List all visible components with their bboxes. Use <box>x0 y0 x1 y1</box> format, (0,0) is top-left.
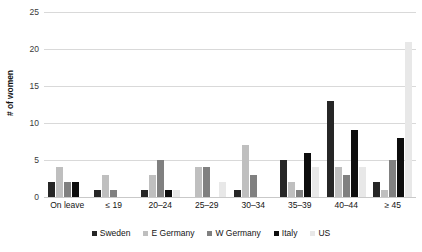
x-axis-label: 25–29 <box>184 200 231 210</box>
x-axis-label: On leave <box>44 200 91 210</box>
bar <box>389 160 396 197</box>
bar <box>381 190 388 197</box>
legend-swatch-icon <box>92 231 97 236</box>
bar-group <box>137 12 184 197</box>
x-axis-label: ≥ 45 <box>370 200 417 210</box>
bar <box>296 190 303 197</box>
legend-item-italy[interactable]: Italy <box>274 228 298 238</box>
legend-swatch-icon <box>143 231 148 236</box>
bar <box>343 175 350 197</box>
bar-group <box>184 12 231 197</box>
y-tick-label: 15 <box>30 81 39 91</box>
bar-group <box>91 12 138 197</box>
y-tick-label: 20 <box>30 44 39 54</box>
x-axis-label: 30–34 <box>230 200 277 210</box>
y-tick-label: 25 <box>30 7 39 17</box>
bar <box>141 190 148 197</box>
x-axis-label: 35–39 <box>277 200 324 210</box>
bar <box>335 167 342 197</box>
bar <box>280 160 287 197</box>
legend-label: Sweden <box>100 228 131 238</box>
bar <box>203 167 210 197</box>
plot-area: 0510152025 <box>44 12 416 197</box>
legend-item-e-germany[interactable]: E Germany <box>143 228 194 238</box>
legend: SwedenE GermanyW GermanyItalyUS <box>0 228 422 238</box>
legend-label: W Germany <box>215 228 260 238</box>
bar-group <box>370 12 417 197</box>
bar <box>94 190 101 197</box>
bar <box>110 190 117 197</box>
legend-swatch-icon <box>274 231 279 236</box>
legend-item-us[interactable]: US <box>310 228 330 238</box>
bar <box>102 175 109 197</box>
gridline-0: 0 <box>44 197 416 198</box>
bar <box>219 182 226 197</box>
bar <box>173 190 180 197</box>
bar <box>149 175 156 197</box>
bar-group <box>323 12 370 197</box>
y-tick-label: 5 <box>34 155 39 165</box>
bar-group <box>277 12 324 197</box>
bar <box>359 167 366 197</box>
bar <box>234 190 241 197</box>
bar-group <box>44 12 91 197</box>
legend-item-w-germany[interactable]: W Germany <box>207 228 260 238</box>
bar-groups <box>44 12 416 197</box>
legend-swatch-icon <box>207 231 212 236</box>
bar <box>165 190 172 197</box>
legend-item-sweden[interactable]: Sweden <box>92 228 131 238</box>
bar <box>304 153 311 197</box>
bar <box>56 167 63 197</box>
bar <box>157 160 164 197</box>
legend-label: US <box>318 228 330 238</box>
bar <box>373 182 380 197</box>
y-axis-title: # of women <box>5 53 15 133</box>
bar <box>242 145 249 197</box>
legend-label: E Germany <box>151 228 194 238</box>
bar <box>195 167 202 197</box>
x-axis-label: 20–24 <box>137 200 184 210</box>
y-tick-label: 0 <box>34 192 39 202</box>
bar <box>250 175 257 197</box>
bar <box>72 182 79 197</box>
bar <box>64 182 71 197</box>
legend-swatch-icon <box>310 231 315 236</box>
y-tick-label: 10 <box>30 118 39 128</box>
bar <box>405 42 412 197</box>
legend-label: Italy <box>282 228 298 238</box>
bar <box>312 167 319 197</box>
bar <box>397 138 404 197</box>
bar-chart: # of women 0510152025 On leave≤ 1920–242… <box>0 0 422 252</box>
x-axis-label: ≤ 19 <box>91 200 138 210</box>
bar <box>48 182 55 197</box>
x-axis-labels: On leave≤ 1920–2425–2930–3435–3940–44≥ 4… <box>44 200 416 210</box>
bar <box>351 130 358 197</box>
bar <box>288 182 295 197</box>
bar-group <box>230 12 277 197</box>
x-axis-label: 40–44 <box>323 200 370 210</box>
bar <box>327 101 334 197</box>
